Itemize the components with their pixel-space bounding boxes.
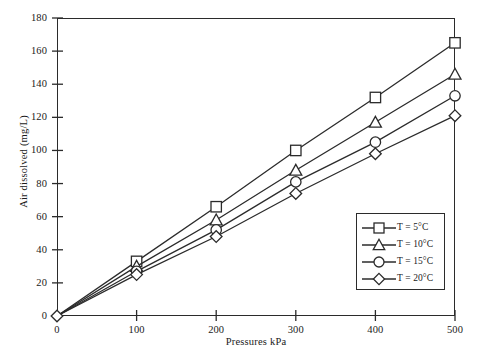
triangle-marker — [210, 214, 222, 225]
legend-label: T = 15°C — [397, 257, 433, 267]
y-tick-label: 160 — [13, 46, 47, 57]
x-tick-label: 500 — [435, 325, 475, 336]
y-axis-title: Air dissolved (mg/L) — [18, 82, 29, 242]
chart-figure: 020406080100120140160180 010020030040050… — [0, 0, 477, 362]
triangle-legend-icon — [361, 237, 397, 253]
circle-marker — [374, 257, 384, 267]
y-tick-label: 40 — [13, 245, 47, 256]
x-axis-ticks — [57, 310, 455, 321]
diamond-marker — [449, 110, 461, 122]
x-tick-label: 400 — [355, 325, 395, 336]
x-axis-title: Pressures kPa — [57, 336, 455, 347]
triangle-marker — [369, 116, 381, 127]
circle-legend-icon — [361, 254, 397, 270]
square-marker — [370, 92, 380, 102]
diamond-legend-icon — [361, 271, 397, 287]
circle-marker — [291, 177, 301, 187]
square-marker — [374, 223, 384, 233]
square-marker — [291, 145, 301, 155]
legend-item[interactable]: T = 15°C — [357, 253, 444, 270]
triangle-marker — [290, 164, 302, 175]
legend-item[interactable]: T = 10°C — [357, 236, 444, 253]
triangle-marker — [449, 68, 461, 79]
legend: T = 5°CT = 10°CT = 15°CT = 20°C — [356, 213, 445, 290]
legend-label: T = 20°C — [397, 274, 433, 284]
legend-item[interactable]: T = 20°C — [357, 270, 444, 287]
x-tick-label: 300 — [276, 325, 316, 336]
diamond-marker — [51, 310, 63, 322]
x-tick-label: 200 — [196, 325, 236, 336]
y-axis-ticks — [52, 18, 63, 316]
square-legend-icon — [361, 220, 397, 236]
y-tick-label: 20 — [13, 278, 47, 289]
legend-label: T = 5°C — [397, 223, 428, 233]
square-marker — [211, 202, 221, 212]
legend-label: T = 10°C — [397, 240, 433, 250]
diamond-marker — [290, 188, 302, 200]
plot-canvas — [0, 0, 477, 362]
x-tick-label: 100 — [117, 325, 157, 336]
y-tick-label: 0 — [13, 311, 47, 322]
x-tick-label: 0 — [37, 325, 77, 336]
legend-item[interactable]: T = 5°C — [357, 219, 444, 236]
circle-marker — [370, 137, 380, 147]
y-tick-label: 180 — [13, 13, 47, 24]
diamond-marker — [373, 273, 384, 284]
circle-marker — [450, 91, 460, 101]
diamond-marker — [370, 148, 382, 160]
square-marker — [450, 38, 460, 48]
